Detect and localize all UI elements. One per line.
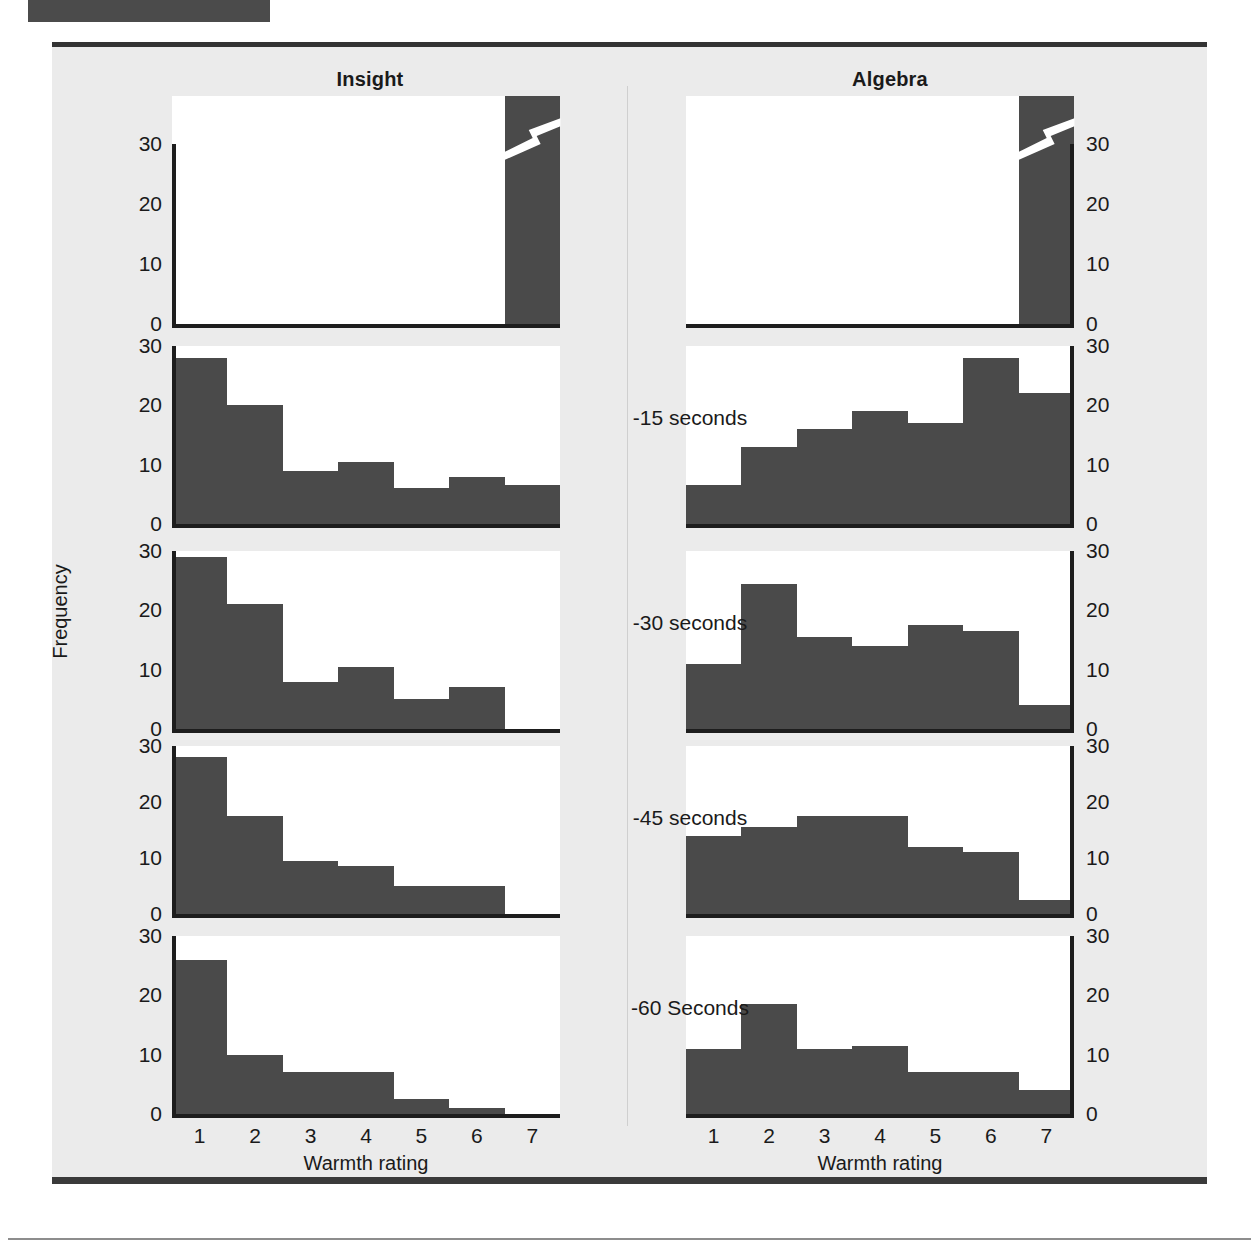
y-tick-label: 0 xyxy=(118,513,162,534)
y-tick-label: 30 xyxy=(118,735,162,756)
x-tick-label: 1 xyxy=(172,1124,227,1148)
bar xyxy=(797,429,852,524)
x-tick-label: 5 xyxy=(908,1124,963,1148)
bar xyxy=(852,1046,907,1114)
panel-algebra-row1 xyxy=(686,346,1074,528)
bar xyxy=(686,1049,741,1114)
plot-area xyxy=(686,551,1074,733)
plot-area xyxy=(172,936,560,1118)
y-tick-label: 0 xyxy=(1086,1103,1130,1124)
bar xyxy=(227,604,282,729)
y-tick-label: 10 xyxy=(1086,253,1130,274)
x-tick-label: 4 xyxy=(852,1124,907,1148)
plot-area xyxy=(686,96,1074,328)
y-axis-line xyxy=(172,746,176,918)
row-label-2: -30 seconds xyxy=(560,611,820,635)
panel-insight-row4 xyxy=(172,936,560,1118)
x-tick-label: 2 xyxy=(741,1124,796,1148)
bar xyxy=(908,847,963,914)
figure-bottom-rule xyxy=(52,1177,1207,1184)
bar xyxy=(852,816,907,914)
y-tick-label: 30 xyxy=(1086,925,1130,946)
y-tick-label: 10 xyxy=(1086,454,1130,475)
y-tick-label: 20 xyxy=(1086,193,1130,214)
panel-insight-row1 xyxy=(172,346,560,528)
bar xyxy=(227,816,282,914)
x-tick-label: 6 xyxy=(963,1124,1018,1148)
x-tick-label: 5 xyxy=(394,1124,449,1148)
bar-group xyxy=(686,746,1074,914)
bar xyxy=(449,477,504,524)
y-tick-label: 20 xyxy=(1086,791,1130,812)
page-footer-rule xyxy=(8,1238,1251,1240)
bar xyxy=(227,1055,282,1114)
y-tick-label: 0 xyxy=(118,903,162,924)
bar-group xyxy=(172,936,560,1114)
bar xyxy=(686,836,741,914)
y-tick-label: 10 xyxy=(118,253,162,274)
row-label-1: -15 seconds xyxy=(560,406,820,430)
bar xyxy=(505,96,560,324)
bar xyxy=(172,358,227,524)
y-tick-label: 30 xyxy=(1086,133,1130,154)
y-tick-label: 10 xyxy=(1086,1044,1130,1065)
column-title-insight: Insight xyxy=(180,68,560,91)
x-tick-label: 7 xyxy=(505,1124,560,1148)
bar-group xyxy=(172,96,560,324)
x-axis-title: Warmth rating xyxy=(686,1152,1074,1175)
bar xyxy=(283,861,338,914)
y-tick-label: 0 xyxy=(118,1103,162,1124)
bar xyxy=(797,1049,852,1114)
bar xyxy=(686,485,741,524)
redaction-block xyxy=(28,0,270,22)
y-tick-label: 30 xyxy=(118,133,162,154)
y-tick-label: 20 xyxy=(118,394,162,415)
bar xyxy=(338,462,393,524)
bar xyxy=(797,637,852,729)
bar xyxy=(963,852,1018,914)
bar xyxy=(1019,393,1074,524)
y-axis-line xyxy=(172,346,176,528)
x-axis-line xyxy=(172,729,560,733)
bar xyxy=(852,411,907,524)
bar xyxy=(394,886,449,914)
bar-group xyxy=(172,746,560,914)
y-axis-line xyxy=(1070,144,1074,328)
bar xyxy=(741,584,796,729)
bar xyxy=(172,757,227,914)
x-axis-line xyxy=(172,914,560,918)
y-tick-label: 30 xyxy=(118,925,162,946)
plot-area xyxy=(686,936,1074,1118)
x-tick-labels: 1234567 xyxy=(686,1124,1074,1148)
panel-algebra-row3 xyxy=(686,746,1074,918)
bar-group xyxy=(686,936,1074,1114)
y-tick-label: 20 xyxy=(118,193,162,214)
y-tick-label: 10 xyxy=(118,847,162,868)
column-title-algebra: Algebra xyxy=(700,68,1080,91)
bar xyxy=(741,1004,796,1114)
bar xyxy=(686,664,741,729)
y-axis-line xyxy=(172,144,176,328)
y-tick-label: 30 xyxy=(118,335,162,356)
x-axis-line xyxy=(686,324,1074,328)
bar xyxy=(172,557,227,729)
y-tick-label: 20 xyxy=(118,599,162,620)
bar-group xyxy=(686,96,1074,324)
y-axis-line xyxy=(1070,936,1074,1118)
x-axis-line xyxy=(172,1114,560,1118)
panel-insight-row2 xyxy=(172,551,560,733)
bar xyxy=(394,699,449,729)
bar xyxy=(908,1072,963,1114)
y-axis-title: Frequency xyxy=(49,532,72,692)
bar xyxy=(449,886,504,914)
bar xyxy=(908,625,963,729)
bar xyxy=(394,1099,449,1114)
figure-page: Insight Algebra Frequency 30201003020100… xyxy=(0,0,1259,1256)
bar xyxy=(1019,96,1074,324)
bar xyxy=(741,447,796,524)
y-tick-label: 0 xyxy=(1086,903,1130,924)
panel-insight-row0 xyxy=(172,96,560,328)
bar xyxy=(1019,1090,1074,1114)
row-label-3: -45 seconds xyxy=(560,806,820,830)
x-tick-label: 4 xyxy=(338,1124,393,1148)
